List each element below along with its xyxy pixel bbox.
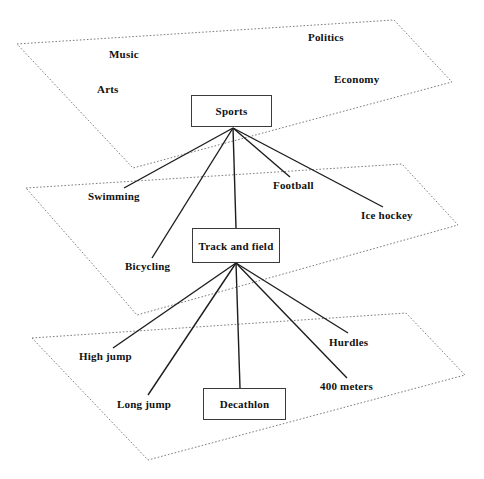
edge-trackfield-highjump	[113, 263, 236, 348]
label-400-meters: 400 meters	[320, 380, 373, 392]
sports-node-label: Sports	[216, 105, 248, 117]
label-bicycling: Bicycling	[125, 260, 170, 272]
label-hurdles: Hurdles	[329, 336, 368, 348]
diagram-canvas: SportsTrack and fieldDecathlon PoliticsM…	[0, 0, 484, 479]
track-and-field-node-label: Track and field	[199, 240, 274, 252]
label-high-jump: High jump	[79, 350, 132, 362]
edge-sports-football	[233, 128, 290, 177]
edge-sports-swimming	[124, 128, 233, 188]
top-domain-plane	[17, 20, 452, 168]
label-economy: Economy	[334, 73, 379, 85]
label-football: Football	[273, 179, 314, 191]
decathlon-node-label: Decathlon	[220, 398, 269, 410]
label-swimming: Swimming	[88, 190, 140, 202]
label-arts: Arts	[97, 83, 119, 95]
label-music: Music	[109, 48, 139, 60]
edge-trackfield-hurdles	[236, 263, 348, 333]
label-politics: Politics	[308, 31, 344, 43]
edge-sports-icehockey	[233, 128, 383, 207]
label-long-jump: Long jump	[117, 398, 171, 410]
edge-trackfield-decathlon	[236, 263, 240, 388]
track-and-field-node[interactable]: Track and field	[192, 228, 280, 263]
edge-sports-trackfield	[233, 128, 236, 228]
sports-node[interactable]: Sports	[191, 95, 272, 127]
bottom-trackfield-plane	[32, 313, 465, 460]
edge-trackfield-400meters	[236, 263, 347, 378]
decathlon-node[interactable]: Decathlon	[203, 388, 286, 420]
label-ice-hockey: Ice hockey	[361, 209, 413, 221]
